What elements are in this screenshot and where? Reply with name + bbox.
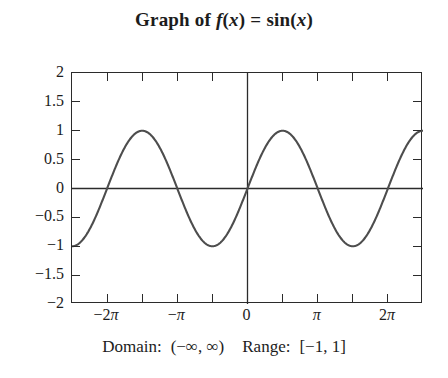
chart-title-expr-arg-close: ) — [306, 9, 313, 30]
figure-sin-graph: Graph off(x)=sin(x) 21.510.50−0.5−1−1.5−… — [0, 0, 448, 378]
x-axis-tick-labels: −2π−π0π2π — [71, 306, 422, 330]
y-tick-mark — [413, 188, 421, 189]
y-tick-mark — [72, 130, 80, 131]
x-tick-mark — [352, 294, 353, 302]
y-tick-mark — [72, 275, 80, 276]
x-tick-mark — [142, 294, 143, 302]
chart-title-equals: = — [250, 9, 261, 30]
x-tick-mark — [352, 73, 353, 81]
chart-title-variable: x — [229, 9, 239, 30]
chart-title-arg-close: ) — [239, 9, 246, 30]
x-tick-mark — [317, 294, 318, 302]
y-tick-mark — [413, 130, 421, 131]
x-tick-mark — [107, 73, 108, 81]
x-tick-mark — [387, 73, 388, 81]
y-tick-mark — [72, 217, 80, 218]
x-tick-mark — [177, 294, 178, 302]
x-tick-label: 0 — [243, 306, 251, 324]
y-tick-mark — [72, 188, 80, 189]
x-tick-label: π — [313, 306, 321, 324]
y-tick-mark — [413, 159, 421, 160]
x-tick-mark — [212, 73, 213, 81]
y-tick-mark — [413, 246, 421, 247]
plot-area — [71, 72, 422, 303]
y-tick-label: −1.5 — [35, 266, 64, 282]
y-tick-mark — [413, 275, 421, 276]
chart-title-prefix: Graph of — [135, 9, 211, 30]
x-tick-mark — [247, 294, 248, 302]
y-tick-label: 1 — [56, 122, 64, 138]
y-axis-tick-labels: 21.510.50−0.5−1−1.5−2 — [0, 72, 64, 303]
x-tick-mark — [107, 294, 108, 302]
caption-range-label: Range: — [242, 337, 290, 356]
x-tick-label: −2π — [94, 306, 119, 324]
x-tick-mark — [282, 294, 283, 302]
caption-domain-value: (−∞, ∞) — [171, 337, 225, 356]
x-tick-mark — [387, 294, 388, 302]
y-tick-label: −2 — [47, 295, 64, 311]
y-tick-label: −0.5 — [35, 208, 64, 224]
caption: Domain:(−∞, ∞)Range:[−1, 1] — [0, 336, 448, 358]
y-tick-label: 1.5 — [44, 93, 64, 109]
chart-title-expr-variable: x — [297, 9, 307, 30]
x-tick-mark — [142, 73, 143, 81]
x-tick-mark — [177, 73, 178, 81]
x-tick-mark — [317, 73, 318, 81]
y-tick-label: 0.5 — [44, 151, 64, 167]
y-tick-label: 2 — [56, 64, 64, 80]
y-tick-label: 0 — [56, 180, 64, 196]
caption-domain-label: Domain: — [102, 337, 162, 356]
caption-range-value: [−1, 1] — [299, 337, 345, 356]
y-tick-mark — [413, 217, 421, 218]
y-tick-mark — [413, 101, 421, 102]
x-tick-label: −π — [168, 306, 185, 324]
x-tick-mark — [247, 73, 248, 81]
x-tick-mark — [212, 294, 213, 302]
y-tick-label: −1 — [47, 237, 64, 253]
y-tick-mark — [72, 101, 80, 102]
x-tick-mark — [282, 73, 283, 81]
chart-title-expression: sin — [266, 9, 290, 30]
chart-title: Graph off(x)=sin(x) — [0, 9, 448, 31]
x-tick-label: 2π — [379, 306, 395, 324]
y-tick-mark — [72, 246, 80, 247]
plot-canvas — [72, 73, 423, 304]
y-tick-mark — [72, 159, 80, 160]
